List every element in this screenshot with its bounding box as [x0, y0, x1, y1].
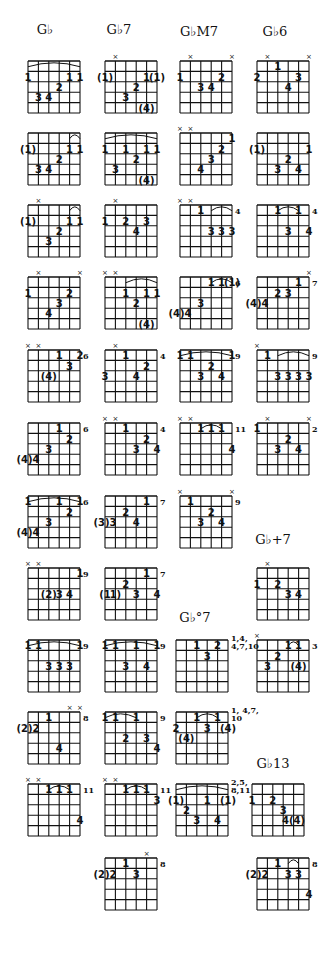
finger-number: 2	[208, 507, 215, 518]
finger-number: 3	[295, 72, 302, 83]
fretboard-grid: ××1(2)34	[28, 568, 80, 620]
fret-position-label: 9	[235, 498, 241, 506]
chord-diagram-gbm7-2: ××1234	[180, 133, 232, 185]
fretboard-grid: (1)1234	[257, 133, 309, 185]
chord-diagram-gbm7-1: ××1234	[180, 61, 232, 113]
chord-diagram-gbm7-3: ××13334	[180, 205, 232, 257]
fretboard-grid: ××1234	[180, 133, 232, 185]
muted-string-icon: ×	[102, 415, 108, 423]
chord-diagram-gb-7: 11123(4)46	[28, 496, 80, 548]
fretboard-grid: ×1234	[105, 205, 157, 257]
fret-position-label: 7	[160, 498, 166, 506]
finger-number: 1	[25, 72, 32, 83]
fret-position-label: 9	[83, 642, 89, 650]
finger-number: 3	[133, 869, 140, 880]
finger-number: 3	[35, 164, 42, 175]
fretboard-grid: 123	[176, 640, 228, 692]
fretboard-grid: 1(2)2334	[257, 858, 309, 910]
finger-number: 3	[45, 517, 52, 528]
finger-number: 1	[122, 288, 129, 299]
finger-number: 1	[77, 144, 84, 155]
finger-number: 2	[143, 361, 150, 372]
chord-diagram-gb6-3: 11344	[257, 205, 309, 257]
finger-number: 1	[133, 640, 140, 651]
finger-number: (2)2	[93, 869, 116, 880]
chord-diagram-gb7-8: 12(11)347	[105, 568, 157, 620]
muted-string-icon: ×	[254, 632, 260, 640]
finger-number: (1)	[20, 144, 36, 155]
finger-number: 1	[122, 858, 129, 869]
fretboard-grid: ×1(2)23	[105, 858, 157, 910]
finger-number: 3	[112, 164, 119, 175]
finger-number: 1	[102, 640, 109, 651]
finger-number: 2	[214, 640, 221, 651]
finger-number: 1	[214, 712, 221, 723]
fret-position-label: 9	[83, 570, 89, 578]
finger-number: 1	[254, 579, 261, 590]
fretboard-grid: 111234	[105, 712, 157, 764]
fret-position-label: 4	[235, 207, 241, 215]
fretboard-grid: 12(11)34	[105, 568, 157, 620]
muted-string-icon: ×	[177, 415, 183, 423]
barre-arc	[105, 135, 157, 139]
barre-arc	[28, 498, 80, 502]
fretboard-grid: 111234	[28, 61, 80, 113]
finger-number: (4)	[291, 661, 307, 672]
fret-position-label: 6	[83, 425, 89, 433]
chord-diagram-gb7-5: ×12344	[105, 350, 157, 402]
chord-diagram-gbm7-6: ××111411	[180, 423, 232, 475]
finger-number: 1	[193, 712, 200, 723]
barre-arc	[105, 714, 136, 718]
finger-number: 1	[112, 712, 119, 723]
finger-number: 4(4)	[282, 815, 305, 826]
finger-number: (4)	[139, 319, 155, 330]
muted-string-icon: ×	[187, 415, 193, 423]
finger-number: (3)3	[93, 517, 116, 528]
muted-string-icon: ×	[177, 125, 183, 133]
finger-number: 3	[122, 661, 129, 672]
finger-number: 1	[249, 795, 256, 806]
finger-number: 3	[204, 651, 211, 662]
finger-number: 1	[143, 496, 150, 507]
finger-number: 2	[66, 507, 73, 518]
finger-number: 1	[143, 568, 150, 579]
muted-string-icon: ×	[35, 342, 41, 350]
finger-number: 4	[45, 308, 52, 319]
fret-position-label: 4	[160, 352, 166, 360]
finger-number: 2	[133, 154, 140, 165]
fret-position-label: 7	[312, 279, 318, 287]
fretboard-grid: 111123(4)	[105, 133, 157, 185]
fretboard-grid: ××1(2)24	[28, 712, 80, 764]
finger-number: 1	[66, 216, 73, 227]
barre-arc	[70, 135, 80, 139]
muted-string-icon: ×	[77, 269, 83, 277]
finger-number: 3	[295, 371, 302, 382]
finger-number: 1	[66, 784, 73, 795]
finger-number: 3	[143, 733, 150, 744]
finger-number: 1	[274, 858, 281, 869]
finger-number: 2	[66, 288, 73, 299]
fret-position-label: 6	[83, 352, 89, 360]
finger-number: 3	[285, 371, 292, 382]
finger-number: 1	[204, 795, 211, 806]
finger-number: 1	[66, 72, 73, 83]
finger-number: 3	[56, 661, 63, 672]
finger-number: 3	[197, 82, 204, 93]
finger-number: 2	[56, 82, 63, 93]
muted-string-icon: ×	[112, 415, 118, 423]
finger-number: (4)4	[245, 298, 268, 309]
finger-number: 1	[122, 144, 129, 155]
finger-number: 2	[218, 72, 225, 83]
finger-number: 3	[133, 444, 140, 455]
finger-number: 2	[56, 154, 63, 165]
fret-position-label: 7	[160, 570, 166, 578]
fretboard-grid: 1234(4)	[252, 784, 304, 836]
finger-number: 4	[154, 444, 161, 455]
muted-string-icon: ×	[112, 197, 118, 205]
chord-diagram-gb-5: ××123(4)6	[28, 350, 80, 402]
finger-number: 3	[285, 288, 292, 299]
fretboard-grid: ××1114	[180, 423, 232, 475]
finger-number: 1	[112, 640, 119, 651]
muted-string-icon: ×	[102, 776, 108, 784]
finger-number: 2	[254, 72, 261, 83]
